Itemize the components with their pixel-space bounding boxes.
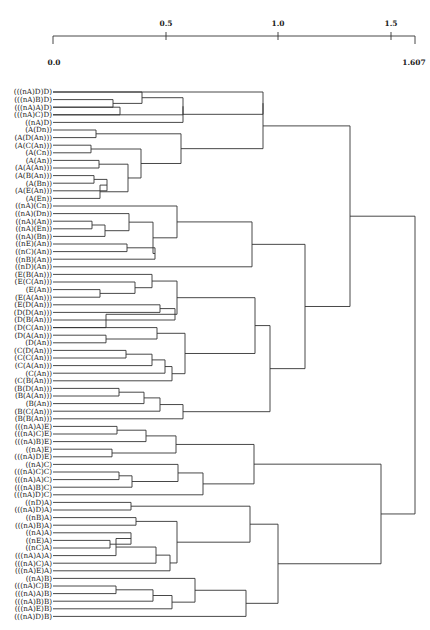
- dendrogram-link: [53, 98, 183, 115]
- dendrogram-link: [53, 305, 160, 313]
- dendrogram-link: [112, 436, 176, 453]
- dendrogram-link: [176, 444, 254, 483]
- dendrogram-link: [152, 281, 177, 314]
- dendrogram-link: [53, 185, 107, 198]
- dendrogram-link: [53, 335, 106, 343]
- dendrogram-link: [53, 92, 142, 103]
- dendrogram-link: [53, 314, 175, 327]
- dendrogram-link: [53, 107, 120, 115]
- dendrogram-link: [53, 354, 152, 365]
- dendrogram-chart: 0.5 1.0 1.5 0.0 1.607 (((nA)D)D)(((nA)B)…: [0, 0, 430, 630]
- dendrogram-link: [263, 126, 350, 307]
- dendrogram-link: [53, 388, 119, 396]
- dendrogram-link: [53, 248, 155, 259]
- dendrogram-link: [53, 360, 165, 373]
- dendrogram-link: [53, 176, 94, 184]
- dendrogram-link: [53, 405, 183, 419]
- dendrogram-link: [53, 518, 136, 526]
- dendrogram-link: [129, 222, 155, 253]
- dendrogram-link: [53, 472, 119, 480]
- dendrogram-link: [53, 426, 117, 434]
- dendrogram-link: [53, 106, 183, 122]
- axis-label-max: 1.607: [402, 58, 426, 67]
- dendrogram-link: [53, 290, 100, 298]
- dendrogram-link: [53, 244, 127, 252]
- dendrogram-link: [53, 130, 96, 138]
- dendrogram-link: [53, 282, 135, 293]
- dendrogram-link: [183, 326, 270, 412]
- dendrogram-link: [53, 350, 126, 358]
- dendrogram-link: [177, 298, 255, 354]
- dendrogram-link: [53, 464, 178, 481]
- dendrogram-link: [53, 225, 105, 236]
- dendrogram-link: [53, 145, 91, 153]
- dendrogram-link: [53, 328, 157, 339]
- dendrogram-link: [53, 367, 172, 381]
- dendrogram-link: [131, 506, 250, 542]
- dendrogram-link: [53, 206, 177, 238]
- dendrogram-link: [53, 502, 131, 510]
- dendrogram-link: [53, 392, 144, 403]
- axis-label-min: 0.0: [47, 58, 60, 67]
- dendrogram-link: [53, 449, 112, 457]
- dendrogram-link: [53, 540, 110, 548]
- leaf-labels: (((nA)D)D)(((nA)B)D)(((nA)A)D)(((nA)C)D)…: [14, 87, 52, 620]
- dendrogram-link: [53, 92, 263, 114]
- tick-label-1.5: 1.5: [384, 19, 397, 28]
- dendrogram-link: [254, 464, 381, 564]
- axis: 0.5 1.0 1.5 0.0 1.607: [47, 19, 425, 67]
- dendrogram-link: [99, 164, 128, 192]
- dendrogram-link: [53, 100, 113, 108]
- dendrogram-link: [53, 590, 153, 601]
- leaf-label: (((nA)D)B): [14, 612, 52, 621]
- tick-label-0.5: 0.5: [159, 19, 172, 28]
- dendrogram-link: [91, 149, 141, 178]
- dendrogram-tree: [53, 92, 415, 616]
- dendrogram-link: [53, 274, 152, 287]
- dendrogram-link: [53, 221, 92, 229]
- dendrogram-link: [252, 244, 305, 368]
- dendrogram-link: [136, 521, 177, 563]
- dendrogram-link: [53, 596, 172, 609]
- dendrogram-link: [53, 214, 129, 231]
- dendrogram-link: [157, 333, 185, 373]
- dendrogram-link: [53, 586, 116, 594]
- dendrogram-link: [53, 160, 99, 168]
- dendrogram-link: [53, 476, 132, 487]
- dendrogram-link: [53, 179, 107, 190]
- dendrogram-link: [53, 590, 246, 616]
- tick-label-1.0: 1.0: [271, 19, 284, 28]
- dendrogram-link: [181, 103, 263, 148]
- dendrogram-link: [350, 216, 415, 514]
- dendrogram-link: [53, 547, 156, 563]
- dendrogram-link: [53, 578, 195, 602]
- dendrogram-link: [246, 524, 278, 603]
- dendrogram-link: [53, 430, 146, 441]
